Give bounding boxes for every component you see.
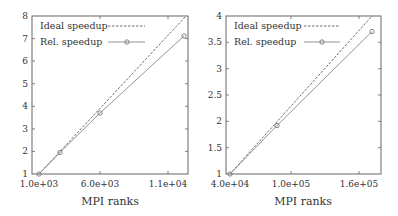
legend-ideal-label: Ideal speedup <box>40 20 108 31</box>
left-legend: Ideal speedup Rel. speedup <box>40 20 145 47</box>
legend-rel-label: Rel. speedup <box>40 36 102 47</box>
left-ytick: 6 <box>22 56 28 66</box>
left-xtick: 6.0e+03 <box>81 179 120 189</box>
right-xtick: 1.0e+05 <box>272 179 311 189</box>
left-ytick: 2 <box>22 146 28 156</box>
left-ytick: 1 <box>22 169 28 179</box>
right-ytick: 3 <box>216 64 222 74</box>
left-xtick: 1.1e+04 <box>149 179 188 189</box>
right-plot: 1 1.5 2 2.5 3 3.5 4 4.0e+04 1.0e+05 1.6e… <box>208 11 381 208</box>
right-xtick: 1.6e+05 <box>340 179 379 189</box>
right-xlabel: MPI ranks <box>274 195 332 208</box>
right-ytick: 1.5 <box>208 143 223 153</box>
left-plot: 1 2 3 4 5 6 7 8 1.0e+03 6.0e+03 1.1e+04 … <box>20 11 188 208</box>
left-ytick: 8 <box>22 11 28 21</box>
right-ytick: 3.5 <box>208 37 223 47</box>
right-rel-line <box>230 32 372 175</box>
right-ytick: 4 <box>216 11 222 21</box>
left-ytick: 7 <box>22 34 28 44</box>
legend-ideal-label: Ideal speedup <box>234 20 302 31</box>
left-ytick: 3 <box>22 124 28 134</box>
left-ytick: 4 <box>22 101 28 111</box>
right-legend: Ideal speedup Rel. speedup <box>234 20 340 47</box>
right-ytick: 1 <box>216 169 222 179</box>
right-ytick: 2 <box>216 116 222 126</box>
left-xtick: 1.0e+03 <box>20 179 59 189</box>
left-xlabel: MPI ranks <box>81 195 139 208</box>
right-xtick: 4.0e+04 <box>211 179 250 189</box>
left-ytick: 5 <box>22 79 28 89</box>
legend-rel-label: Rel. speedup <box>234 36 296 47</box>
right-ytick: 2.5 <box>208 90 223 100</box>
left-rel-line <box>39 36 184 174</box>
speedup-figure: 1 2 3 4 5 6 7 8 1.0e+03 6.0e+03 1.1e+04 … <box>0 0 398 216</box>
